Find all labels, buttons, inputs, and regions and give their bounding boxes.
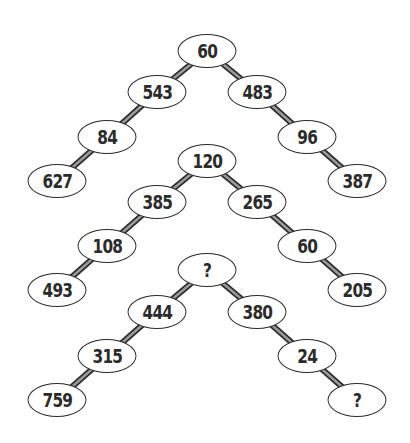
node-label: 315 (92, 345, 122, 367)
number-tree-puzzle: 60543483849662738712038526510860493205?4… (0, 0, 410, 443)
number-node: 315 (78, 339, 137, 373)
node-label: 108 (92, 235, 122, 257)
node-label: 387 (342, 170, 372, 192)
node-label: 493 (42, 279, 72, 301)
number-node: 627 (28, 164, 87, 198)
number-node: 60 (278, 229, 337, 263)
node-label: 84 (97, 126, 117, 148)
node-label: ? (203, 259, 211, 281)
number-node: 493 (28, 273, 87, 307)
number-node: 385 (128, 185, 187, 219)
node-label: ? (353, 389, 361, 411)
node-label: 380 (242, 301, 272, 323)
node-label: 265 (242, 191, 272, 213)
number-node: 543 (128, 75, 187, 109)
number-node: 24 (278, 339, 337, 373)
number-node: 96 (278, 120, 337, 154)
node-label: 205 (342, 279, 372, 301)
node-label: 759 (42, 389, 72, 411)
number-node: 120 (178, 144, 237, 178)
number-node: 759 (28, 383, 87, 417)
node-label: 385 (142, 191, 172, 213)
node-label: 60 (197, 40, 217, 62)
node-label: 24 (297, 345, 317, 367)
number-node: 387 (328, 164, 387, 198)
number-node: 483 (228, 75, 287, 109)
node-label: 627 (42, 170, 72, 192)
node-label: 483 (242, 81, 272, 103)
number-node: 60 (178, 34, 237, 68)
node-label: 60 (297, 235, 317, 257)
node-label: 444 (142, 301, 172, 323)
number-node: 108 (78, 229, 137, 263)
unknown-node: ? (328, 383, 387, 417)
node-label: 543 (142, 81, 172, 103)
number-node: 205 (328, 273, 387, 307)
node-label: 120 (192, 150, 222, 172)
number-node: 444 (128, 295, 187, 329)
unknown-node: ? (178, 253, 237, 287)
number-node: 380 (228, 295, 287, 329)
node-label: 96 (297, 126, 317, 148)
number-node: 265 (228, 185, 287, 219)
number-node: 84 (78, 120, 137, 154)
